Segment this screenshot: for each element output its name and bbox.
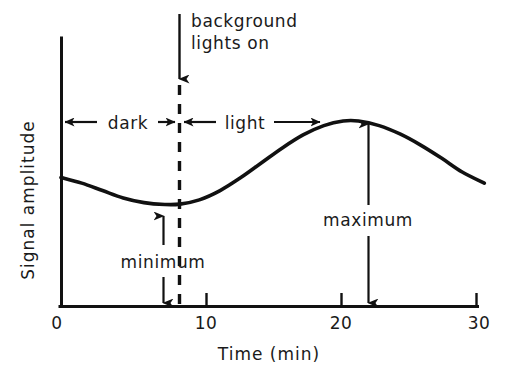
x-tick-label-0: 0: [51, 313, 62, 333]
maximum-label: maximum: [323, 210, 413, 230]
y-axis-title: Signal amplitude: [18, 120, 38, 280]
signal-curve: [61, 120, 484, 204]
dark-label: dark: [108, 113, 148, 133]
light-interval-annotation: light: [184, 113, 320, 133]
x-axis-ticks: [207, 293, 477, 307]
x-tick-label-20: 20: [330, 313, 353, 333]
x-tick-label-10: 10: [195, 313, 218, 333]
background-lights-on-label-line2: lights on: [191, 33, 270, 53]
maximum-annotation: maximum: [323, 124, 413, 303]
light-label: light: [225, 113, 266, 133]
x-axis-title: Time (min): [217, 344, 320, 364]
minimum-label: minimum: [121, 252, 206, 272]
figure-container: 0 10 20 30 Time (min) Signal amplitude b…: [0, 0, 530, 374]
x-axis-tick-labels: 0 10 20 30: [51, 313, 490, 333]
x-tick-label-30: 30: [468, 313, 491, 333]
background-lights-on-label-line1: background: [191, 11, 298, 31]
dark-interval-annotation: dark: [65, 113, 175, 133]
background-lights-on-annotation: background lights on: [180, 11, 298, 79]
minimum-annotation: minimum: [121, 216, 206, 303]
signal-amplitude-chart: 0 10 20 30 Time (min) Signal amplitude b…: [0, 0, 530, 374]
